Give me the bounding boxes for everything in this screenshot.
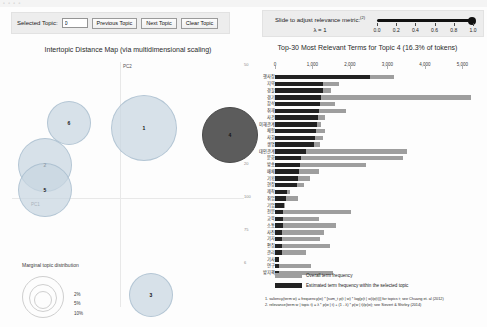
term-label[interactable]: 사회 — [249, 135, 275, 141]
term-label[interactable]: 대인관계 — [249, 149, 275, 155]
bar-topic-frequency — [275, 163, 300, 168]
relevance-slider[interactable]: 0.00.20.40.60.81.0 — [375, 17, 477, 35]
bar-topic-frequency — [275, 115, 318, 120]
term-label[interactable]: 전문 — [249, 209, 275, 215]
clear-topic-button[interactable]: Clear Topic — [181, 18, 218, 29]
bar-chart-row[interactable]: 기획 — [248, 175, 487, 181]
term-label[interactable]: 생명 — [249, 142, 275, 148]
relevance-slider-label: Slide to adjust relevance metric:(2) — [271, 15, 369, 23]
mds-topic-label-1: 1 — [143, 125, 146, 131]
bar-chart-row[interactable]: 교육 — [248, 216, 487, 222]
mds-title: Intertopic Distance Map (via multidimens… — [8, 46, 248, 53]
bar-chart-row[interactable]: 취업 — [248, 196, 487, 202]
previous-topic-button[interactable]: Previous Topic — [92, 18, 138, 29]
bar-chart-row[interactable]: 현장 — [248, 182, 487, 188]
bar-chart-row[interactable]: 연구 — [248, 263, 487, 269]
bar-chart-row[interactable]: 편집 — [248, 243, 487, 249]
legend-swatch-topic — [275, 283, 302, 289]
bar-chart-row[interactable]: 이해관계 — [248, 121, 487, 127]
bar-topic-frequency — [275, 217, 283, 222]
bar-chart-row[interactable]: 방송 — [248, 162, 487, 168]
bar-overall-frequency — [275, 264, 311, 269]
term-label[interactable]: 기자 — [249, 236, 275, 242]
footnotes: 1. saliency(term w) = frequency(w) * [su… — [265, 296, 487, 308]
bar-topic-frequency — [275, 75, 370, 80]
bar-topic-frequency — [275, 210, 283, 215]
slider-tick-label: 0.0 — [374, 27, 381, 33]
term-label[interactable]: 소통 — [249, 223, 275, 229]
bar-chart-row[interactable]: 사진 — [248, 229, 487, 235]
bar-chart-rows: 행사장지역경찰경기참석취재사건이해관계체험사회생명대인관계문화방송매체기획현장제… — [248, 66, 487, 271]
bar-chart-row[interactable]: 매체 — [248, 169, 487, 175]
bar-chart-row[interactable]: 취재 — [248, 108, 487, 114]
bar-chart-row[interactable]: 기자 — [248, 236, 487, 242]
bar-chart-row[interactable]: 생명 — [248, 142, 487, 148]
bar-chart-row[interactable]: 사건 — [248, 115, 487, 121]
bar-topic-frequency — [275, 136, 315, 141]
legend-swatch-overall — [275, 273, 302, 279]
bar-chart-row[interactable]: 행사장 — [248, 74, 487, 80]
term-label[interactable]: 체험 — [249, 128, 275, 134]
term-label[interactable]: 경기 — [249, 95, 275, 101]
term-label[interactable]: 기사 — [249, 257, 275, 263]
term-label[interactable]: 기획 — [249, 176, 275, 182]
mds-topic-label-4: 4 — [229, 132, 232, 138]
lambda-text-block: Slide to adjust relevance metric:(2) λ =… — [271, 15, 369, 33]
term-label[interactable]: 현장 — [249, 182, 275, 188]
term-label[interactable]: 취재 — [249, 108, 275, 114]
marginal-pct-2: 2% — [74, 292, 81, 297]
mds-topic-label-6: 6 — [68, 120, 71, 126]
slider-tick-mark — [473, 23, 474, 26]
bar-chart-row[interactable]: 지역 — [248, 81, 487, 87]
bar-topic-frequency — [275, 237, 282, 242]
bar-chart-row[interactable]: 경기 — [248, 94, 487, 100]
slider-tick-mark — [415, 23, 416, 26]
term-label[interactable]: 방송 — [249, 162, 275, 168]
bar-topic-frequency — [275, 196, 286, 201]
bar-chart-row[interactable]: 대인관계 — [248, 148, 487, 154]
bar-topic-frequency — [275, 149, 306, 154]
term-label[interactable]: 문화 — [249, 155, 275, 161]
bar-overall-frequency — [275, 210, 351, 215]
bar-chart-row[interactable]: 관리 — [248, 250, 487, 256]
bar-chart-row[interactable]: 문화 — [248, 155, 487, 161]
selected-topic-input[interactable] — [62, 18, 88, 28]
term-label[interactable]: 편집 — [249, 243, 275, 249]
bar-topic-frequency — [275, 176, 298, 181]
bar-chart-row[interactable]: 참석 — [248, 101, 487, 107]
term-label[interactable]: 제작 — [249, 189, 275, 195]
bar-chart-row[interactable]: 사회 — [248, 135, 487, 141]
bar-overall-frequency — [275, 223, 336, 228]
bar-chart-row[interactable]: 경찰 — [248, 88, 487, 94]
term-label[interactable]: 매체 — [249, 169, 275, 175]
term-label[interactable]: 교육 — [249, 216, 275, 222]
term-label[interactable]: 사진 — [249, 230, 275, 236]
term-label[interactable]: 행사장 — [249, 74, 275, 80]
bar-chart-row[interactable]: 전문 — [248, 209, 487, 215]
bar-chart-row[interactable]: 소통 — [248, 223, 487, 229]
term-label[interactable]: 이해관계 — [249, 122, 275, 128]
term-label[interactable]: 연구 — [249, 263, 275, 269]
lambda-value-readout: λ = 1 — [271, 27, 369, 33]
relevance-slider-label-text: Slide to adjust relevance metric: — [275, 17, 360, 23]
slider-track[interactable] — [377, 19, 473, 22]
term-label[interactable]: 기업 — [249, 203, 275, 209]
bar-chart-row[interactable]: 체험 — [248, 128, 487, 134]
slider-tick-labels: 0.00.20.40.60.81.0 — [375, 23, 477, 35]
term-label[interactable]: 취업 — [249, 196, 275, 202]
term-label[interactable]: 참석 — [249, 101, 275, 107]
window-chrome-strip: ▫ ▫ ▫ ▫ — [0, 0, 487, 7]
bar-chart-row[interactable]: 제작 — [248, 189, 487, 195]
next-topic-button[interactable]: Next Topic — [141, 18, 177, 29]
window-chrome-dots: ▫ ▫ ▫ ▫ — [3, 0, 21, 6]
term-label[interactable]: 관리 — [249, 250, 275, 256]
term-label[interactable]: 지역 — [249, 81, 275, 87]
marginal-pct-5: 5% — [74, 301, 81, 306]
term-label[interactable]: 경찰 — [249, 88, 275, 94]
term-label[interactable]: 방지책 — [249, 270, 275, 276]
bar-chart-row[interactable]: 기업 — [248, 202, 487, 208]
term-label[interactable]: 사건 — [249, 115, 275, 121]
slider-tick-mark — [396, 23, 397, 26]
slider-tick-label: 0.4 — [412, 27, 419, 33]
bar-chart-row[interactable]: 기사 — [248, 256, 487, 262]
